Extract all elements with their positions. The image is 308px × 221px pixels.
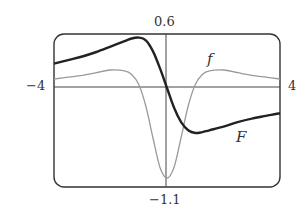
plot-frame <box>54 34 280 187</box>
curve-f-label: f <box>207 50 213 68</box>
y-max-label: 0.6 <box>154 14 175 29</box>
x-min-label: −4 <box>26 78 45 93</box>
curve-F-label: F <box>236 128 246 146</box>
chart-svg <box>0 0 308 221</box>
x-max-label: 4 <box>288 78 296 93</box>
curve-F <box>54 38 280 134</box>
y-min-label: −1.1 <box>149 192 181 207</box>
